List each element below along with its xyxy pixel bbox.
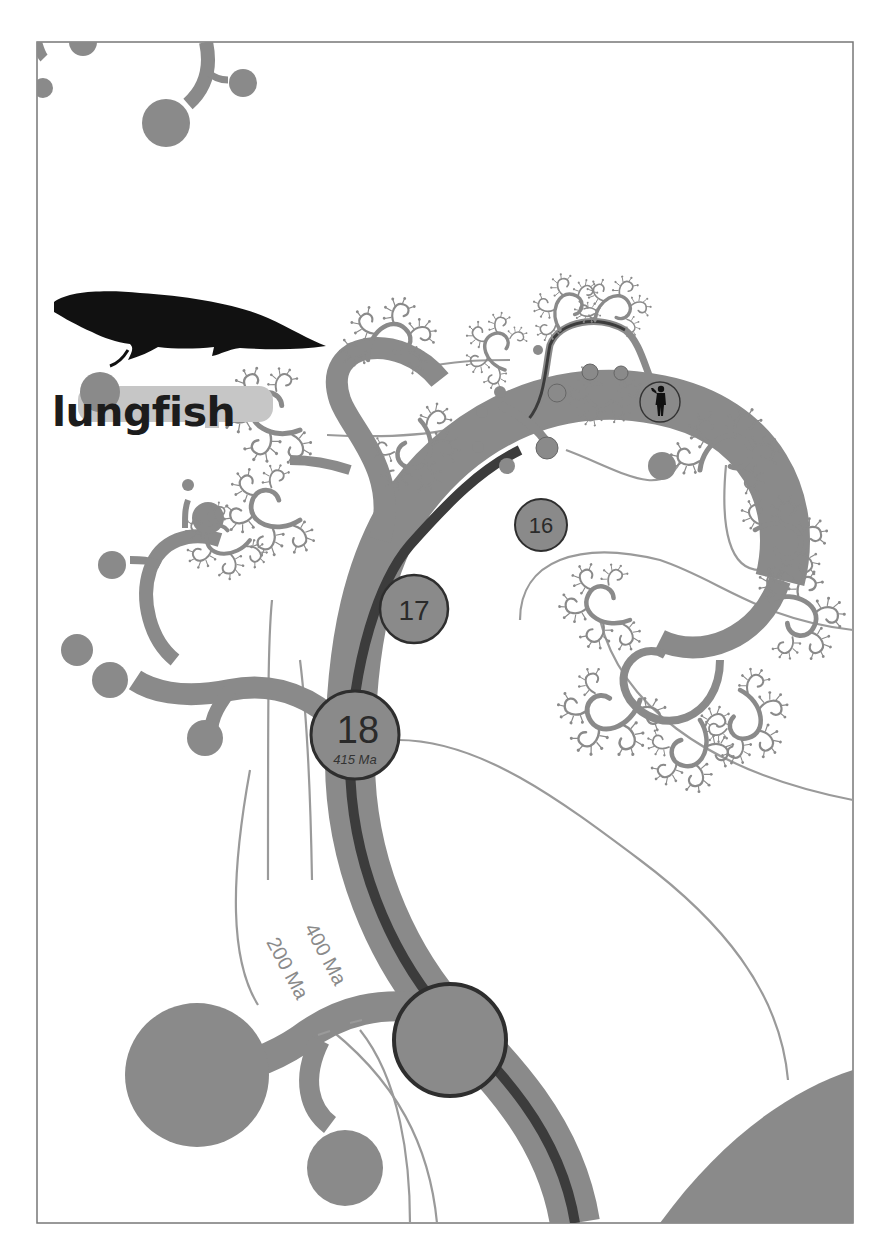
lungfish-silhouette-icon: [54, 291, 326, 360]
time-label-200ma: 200 Ma: [262, 934, 313, 1004]
time-label-400ma: 400 Ma: [300, 920, 351, 990]
node-18-date: 415 Ma: [333, 752, 376, 767]
bottom-right-mass: [660, 1070, 853, 1223]
node-17[interactable]: 17: [380, 575, 448, 643]
tree-diagram: 16 17 18 415 Ma 400 Ma 200 Ma: [0, 0, 890, 1254]
node-16[interactable]: 16: [515, 499, 567, 551]
node-16-number: 16: [529, 513, 553, 538]
lower-right-spiral: [623, 651, 720, 721]
node-19[interactable]: [394, 984, 506, 1096]
node-18-number: 18: [337, 709, 379, 751]
node-17-number: 17: [398, 595, 429, 626]
top-left-branch-fragment: [33, 28, 257, 147]
